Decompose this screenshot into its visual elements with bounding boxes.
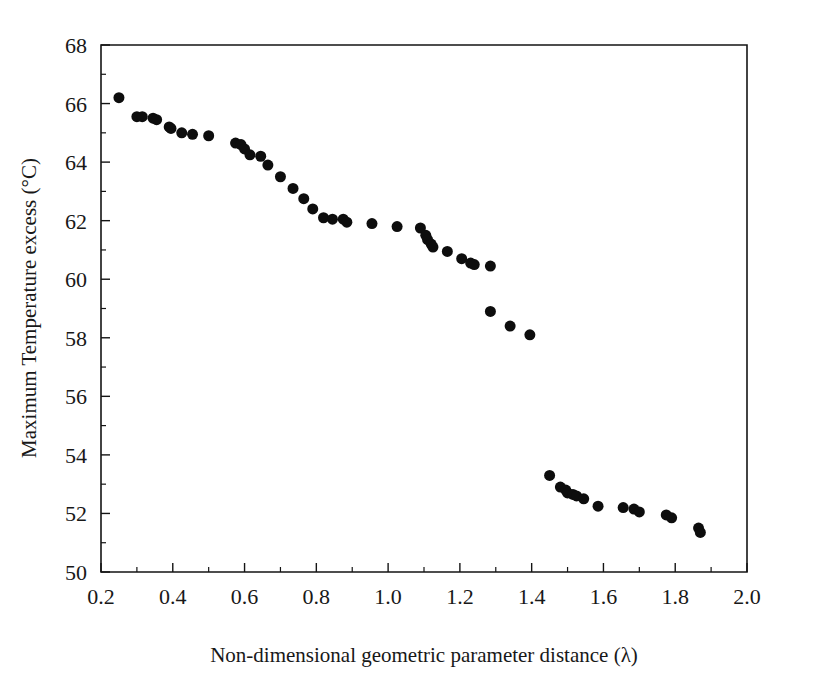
x-tick-label: 1.6 (590, 584, 618, 609)
x-tick-label: 1.0 (374, 584, 402, 609)
data-point (288, 183, 299, 194)
data-point (634, 506, 645, 517)
scatter-plot: 0.20.40.60.81.01.21.41.61.82.0 505254565… (0, 0, 833, 689)
data-point (327, 214, 338, 225)
plot-border (101, 45, 747, 572)
x-tick-label: 1.4 (518, 584, 546, 609)
figure-container: 0.20.40.60.81.01.21.41.61.82.0 505254565… (0, 0, 833, 689)
x-axis-ticks (101, 563, 747, 572)
data-point (165, 123, 176, 134)
x-tick-label: 2.0 (733, 584, 761, 609)
data-point (137, 111, 148, 122)
data-point (666, 512, 677, 523)
data-point (151, 114, 162, 125)
y-tick-label: 68 (65, 33, 87, 58)
y-tick-label: 56 (65, 384, 87, 409)
y-tick-label: 62 (65, 209, 87, 234)
data-point (392, 221, 403, 232)
data-point (262, 160, 273, 171)
data-point (485, 306, 496, 317)
data-point (187, 129, 198, 140)
axes-frame (101, 45, 747, 572)
y-tick-label: 64 (65, 150, 87, 175)
x-axis-label: Non-dimensional geometric parameter dist… (210, 643, 638, 667)
x-tick-label: 1.8 (661, 584, 689, 609)
y-tick-label: 50 (65, 560, 87, 585)
y-tick-label: 66 (65, 92, 87, 117)
data-point (485, 261, 496, 272)
x-tick-label: 0.4 (159, 584, 187, 609)
data-point (695, 527, 706, 538)
x-tick-label: 0.8 (303, 584, 331, 609)
data-point (578, 493, 589, 504)
data-point (427, 242, 438, 253)
y-tick-label: 52 (65, 501, 87, 526)
data-point (341, 217, 352, 228)
y-axis-tick-labels: 50525456586062646668 (65, 33, 87, 585)
y-tick-label: 58 (65, 326, 87, 351)
y-axis-ticks (101, 45, 110, 572)
data-point (307, 203, 318, 214)
data-point (113, 92, 124, 103)
x-axis-tick-labels: 0.20.40.60.81.01.21.41.61.82.0 (87, 584, 761, 609)
data-points (113, 92, 705, 538)
data-point (593, 501, 604, 512)
data-point (442, 246, 453, 257)
y-axis-label: Maximum Temperature excess (°C) (17, 158, 41, 458)
data-point (544, 470, 555, 481)
data-point (203, 130, 214, 141)
data-point (298, 193, 309, 204)
data-point (469, 259, 480, 270)
y-tick-label: 60 (65, 267, 87, 292)
data-point (255, 151, 266, 162)
data-point (618, 502, 629, 513)
y-tick-label: 54 (65, 443, 87, 468)
x-tick-label: 1.2 (446, 584, 474, 609)
data-point (244, 149, 255, 160)
x-tick-label: 0.2 (87, 584, 115, 609)
data-point (505, 321, 516, 332)
data-point (275, 171, 286, 182)
data-point (366, 218, 377, 229)
data-point (176, 127, 187, 138)
x-tick-label: 0.6 (231, 584, 259, 609)
data-point (524, 329, 535, 340)
